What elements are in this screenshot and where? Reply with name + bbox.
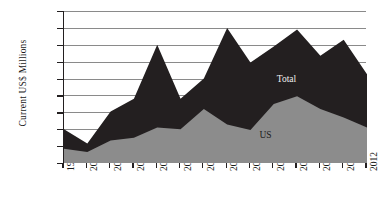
x-tick-label-2012: 2012 bbox=[370, 152, 378, 171]
x-tick-mark-2005 bbox=[202, 163, 203, 168]
x-tick-mark-2012 bbox=[365, 163, 366, 168]
x-tick-mark-2001 bbox=[109, 163, 110, 168]
x-tick-mark-2010 bbox=[319, 163, 320, 168]
x-tick-mark-2006 bbox=[226, 163, 227, 168]
x-tick-mark-2002 bbox=[132, 163, 133, 168]
x-tick-mark-2009 bbox=[295, 163, 296, 168]
stacked-area-chart: Current US$ Millions 1800160014001200100… bbox=[0, 0, 378, 216]
y-axis-title: Current US$ Millions bbox=[18, 8, 28, 158]
series-label-us: US bbox=[259, 131, 271, 141]
x-tick-mark-1999 bbox=[62, 163, 63, 168]
x-tick-mark-2008 bbox=[272, 163, 273, 168]
x-tick-mark-2004 bbox=[179, 163, 180, 168]
x-tick-mark-2011 bbox=[342, 163, 343, 168]
x-tick-mark-2007 bbox=[249, 163, 250, 168]
plot-area bbox=[63, 11, 366, 163]
x-tick-mark-2003 bbox=[156, 163, 157, 168]
series-label-total: Total bbox=[277, 75, 296, 85]
area-series-group bbox=[64, 11, 367, 163]
x-tick-mark-2000 bbox=[86, 163, 87, 168]
